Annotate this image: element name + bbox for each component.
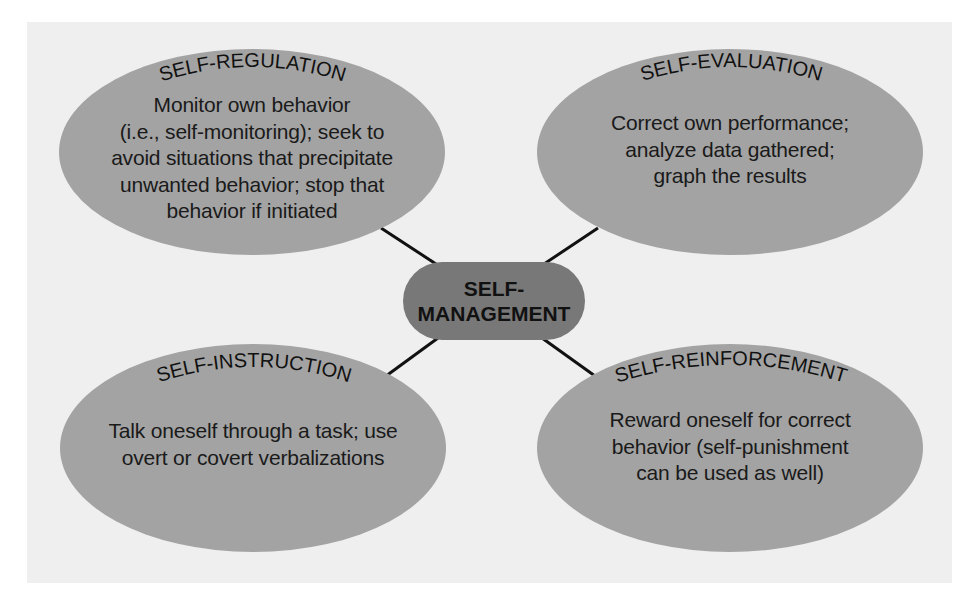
node-body-self-reinforcement: Reward oneself for correct behavior (sel… (570, 407, 890, 487)
connector-top-right (544, 228, 598, 264)
center-label-line2: MANAGEMENT (418, 301, 571, 326)
node-line: can be used as well) (570, 460, 890, 487)
node-line: unwanted behavior; stop that (92, 172, 412, 199)
node-line: analyze data gathered; (570, 137, 890, 164)
node-line: behavior (self-punishment (570, 434, 890, 461)
node-line: avoid situations that precipitate (92, 145, 412, 172)
node-line: Correct own performance; (570, 110, 890, 137)
connector-bottom-left (386, 338, 438, 376)
node-line: graph the results (570, 163, 890, 190)
center-label-line1: SELF- (464, 276, 525, 301)
node-body-self-evaluation: Correct own performance; analyze data ga… (570, 110, 890, 190)
node-line: behavior if initiated (92, 198, 412, 225)
node-line: Monitor own behavior (92, 92, 412, 119)
connector-top-left (381, 228, 436, 264)
node-body-self-instruction: Talk oneself through a task; use overt o… (93, 418, 413, 471)
node-line: Talk oneself through a task; use (93, 418, 413, 445)
node-body-self-regulation: Monitor own behavior (i.e., self-monitor… (92, 92, 412, 225)
center-label: SELF- MANAGEMENT (403, 262, 585, 340)
node-line: (i.e., self-monitoring); seek to (92, 119, 412, 146)
node-line: overt or covert verbalizations (93, 445, 413, 472)
connector-bottom-right (542, 338, 595, 376)
node-line: Reward oneself for correct (570, 407, 890, 434)
